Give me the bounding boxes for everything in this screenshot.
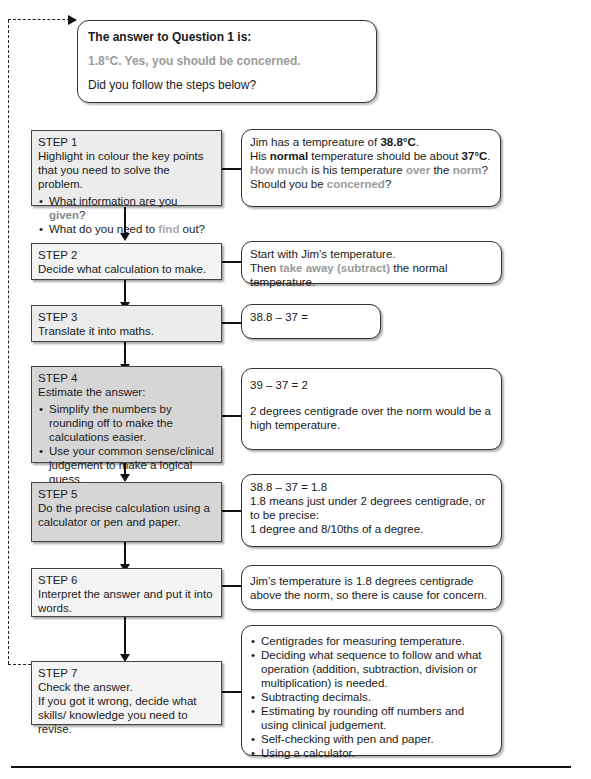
step-bullet: Simplify the numbers by rounding off to … [38, 402, 215, 444]
list-item: Centigrades for measuring temperature. [250, 634, 493, 648]
flow-line [124, 207, 126, 235]
step-text: Translate it into maths. [38, 325, 154, 337]
step-5-box: STEP 5 Do the precise calculation using … [31, 482, 222, 542]
step-1-box: STEP 1 Highlight in colour the key point… [31, 130, 222, 206]
feedback-arrow-icon [68, 15, 77, 25]
arrow-down-icon [120, 233, 130, 241]
answer-question: Did you follow the steps below? [88, 78, 366, 92]
step-7-note: Centigrades for measuring temperature. D… [241, 625, 502, 756]
step-text: Decide what calculation to make. [38, 263, 206, 275]
list-item: Subtracting decimals. [250, 690, 493, 704]
answer-value: 1.8°C. Yes, you should be concerned. [88, 54, 366, 68]
revision-list: Centigrades for measuring temperature. D… [250, 634, 493, 760]
step-text: Interpret the answer and put it into wor… [38, 588, 213, 614]
feedback-loop-line [8, 20, 9, 664]
step-label: STEP 5 [38, 487, 215, 501]
flow-line [124, 342, 126, 366]
step-2-box: STEP 2 Decide what calculation to make. [31, 243, 222, 280]
list-item: Estimating by rounding off numbers and u… [250, 704, 493, 732]
step-2-note: Start with Jim’s temperature. Then take … [241, 241, 502, 284]
step-label: STEP 1 [38, 135, 215, 149]
list-item: Using a calculator. [250, 746, 493, 760]
connector [222, 261, 241, 263]
step-bullet: What information are you given? [38, 194, 215, 222]
step-label: STEP 3 [38, 310, 215, 324]
arrow-down-icon [120, 474, 130, 482]
step-label: STEP 2 [38, 248, 215, 262]
connector [222, 691, 241, 693]
step-text: Highlight in colour the key points that … [38, 150, 204, 190]
step-1-note: Jim has a tempreature of 38.8°C. His nor… [241, 129, 501, 207]
step-bullets: What information are you given? What do … [38, 194, 215, 236]
step-3-note: 38.8 – 37 = [241, 304, 381, 339]
step-text: Do the precise calculation using a calcu… [38, 502, 210, 528]
step-text: Estimate the answer: [38, 386, 145, 398]
step-3-box: STEP 3 Translate it into maths. [31, 305, 222, 342]
connector [222, 585, 241, 587]
flow-line [124, 280, 126, 304]
step-4-note: 39 – 37 = 2 2 degrees centigrade over th… [241, 368, 502, 450]
step-label: STEP 7 [38, 666, 215, 680]
bottom-divider [11, 766, 571, 768]
connector [222, 322, 241, 324]
feedback-loop-top [8, 19, 70, 20]
step-label: STEP 6 [38, 573, 215, 587]
answer-title: The answer to Question 1 is: [88, 30, 366, 44]
connector [222, 510, 241, 512]
connector [222, 415, 241, 417]
step-4-box: STEP 4 Estimate the answer: Simplify the… [31, 366, 222, 463]
answer-box: The answer to Question 1 is: 1.8°C. Yes,… [77, 20, 377, 103]
step-6-note: Jim’s temperature is 1.8 degrees centigr… [241, 565, 502, 610]
step-6-box: STEP 6 Interpret the answer and put it i… [31, 568, 222, 617]
flow-line [124, 542, 126, 566]
step-text: Check the answer. [38, 680, 215, 694]
step-label: STEP 4 [38, 371, 215, 385]
list-item: Deciding what sequence to follow and wha… [250, 648, 493, 690]
connector [222, 168, 241, 170]
step-5-note: 38.8 – 37 = 1.8 1.8 means just under 2 d… [241, 474, 502, 547]
step-7-box: STEP 7 Check the answer. If you got it w… [31, 661, 222, 725]
flow-line [124, 617, 126, 656]
feedback-loop-bottom [8, 664, 31, 665]
list-item: Self-checking with pen and paper. [250, 732, 493, 746]
step-text-2: If you got it wrong, decide what skills/… [38, 695, 197, 735]
